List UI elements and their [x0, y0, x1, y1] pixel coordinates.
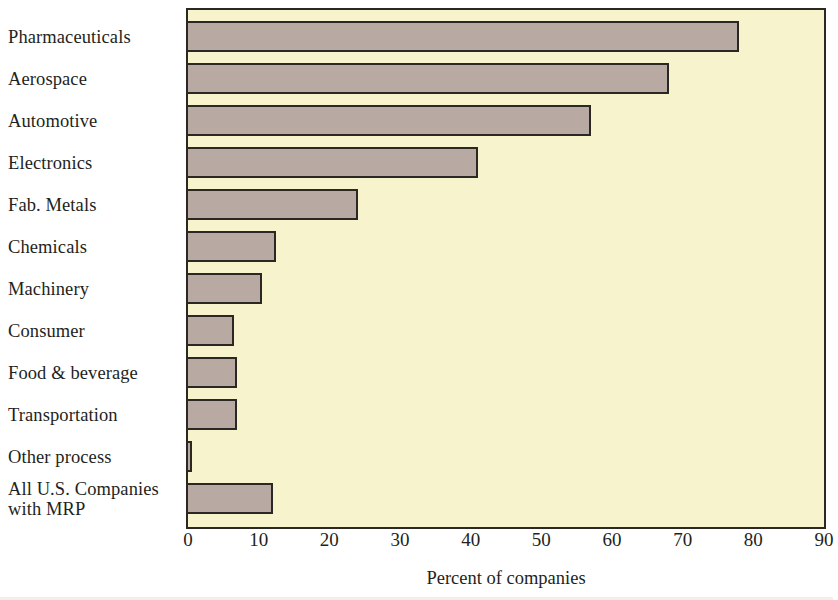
category-label: Automotive [8, 112, 182, 132]
bar [188, 315, 234, 346]
x-tick-label: 50 [511, 529, 571, 551]
bar [188, 399, 237, 430]
x-tick-label: 40 [441, 529, 501, 551]
category-label: Chemicals [8, 238, 182, 258]
x-tick-label: 80 [723, 529, 783, 551]
x-tick-label: 20 [299, 529, 359, 551]
x-tick-label: 90 [794, 529, 838, 551]
category-label: Machinery [8, 280, 182, 300]
category-label: Pharmaceuticals [8, 28, 182, 48]
bar [188, 21, 739, 52]
plot-inner [188, 10, 824, 527]
bar [188, 231, 276, 262]
x-tick-label: 0 [158, 529, 218, 551]
bar [188, 105, 591, 136]
x-tick-label: 30 [370, 529, 430, 551]
x-axis: 0102030405060708090 [0, 529, 833, 565]
category-axis: PharmaceuticalsAerospaceAutomotiveElectr… [0, 12, 182, 528]
plot-area [186, 8, 826, 529]
bar [188, 63, 669, 94]
category-label: Transportation [8, 406, 182, 426]
category-label: Food & beverage [8, 364, 182, 384]
x-axis-title: Percent of companies [186, 568, 826, 589]
category-label: All U.S. Companies with MRP [8, 480, 182, 520]
category-label: Electronics [8, 154, 182, 174]
x-tick-label: 60 [582, 529, 642, 551]
bar [188, 483, 273, 514]
category-label: Aerospace [8, 70, 182, 90]
bar [188, 189, 358, 220]
x-tick-label: 70 [653, 529, 713, 551]
bar [188, 273, 262, 304]
x-tick-label: 10 [229, 529, 289, 551]
category-label: Consumer [8, 322, 182, 342]
bar [188, 147, 478, 178]
bar [188, 357, 237, 388]
bar [188, 441, 192, 472]
category-label: Fab. Metals [8, 196, 182, 216]
category-label: Other process [8, 448, 182, 468]
